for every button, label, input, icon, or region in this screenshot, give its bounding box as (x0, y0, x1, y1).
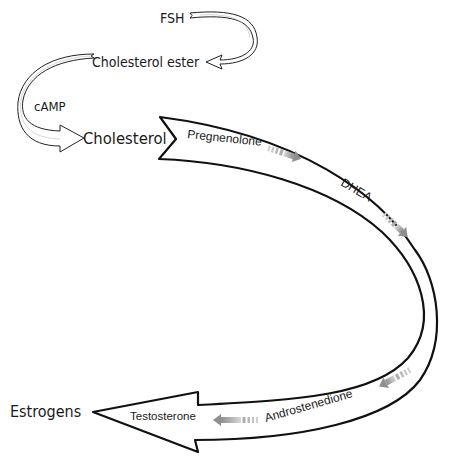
label-estrogens: Estrogens (10, 402, 81, 421)
label-fsh: FSH (160, 10, 184, 26)
main-pathway-ribbon (93, 117, 437, 452)
steroid-pathway-diagram: FSH Cholesterol ester cAMP Cholesterol P… (0, 0, 450, 470)
label-cholesterol-ester: Cholesterol ester (92, 54, 200, 70)
fsh-to-ester-arrow (190, 12, 257, 69)
label-testosterone: Testosterone (130, 410, 196, 422)
label-cholesterol: Cholesterol (83, 129, 167, 148)
label-camp: cAMP (34, 99, 66, 114)
